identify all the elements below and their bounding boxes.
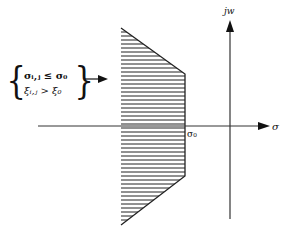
left-brace: { [6,60,25,100]
right-brace: } [74,60,93,100]
sigma-axis-label: σ [272,121,279,132]
condition-line-1: σᵢ,ⱼ ≤ σ₀ [24,70,67,81]
condition-arrow-icon [98,75,108,83]
condition-block: { σᵢ,ⱼ ≤ σ₀ ξᵢ,ⱼ > ξ₀ } [6,64,86,104]
sigma0-label: σ₀ [187,129,197,139]
sigma-axis-arrow-icon [258,122,270,130]
jw-axis-label: jw [224,6,235,16]
condition-line-2: ξᵢ,ⱼ > ξ₀ [24,85,62,96]
diagram-canvas [0,0,300,240]
jw-axis-arrow-icon [226,20,234,32]
